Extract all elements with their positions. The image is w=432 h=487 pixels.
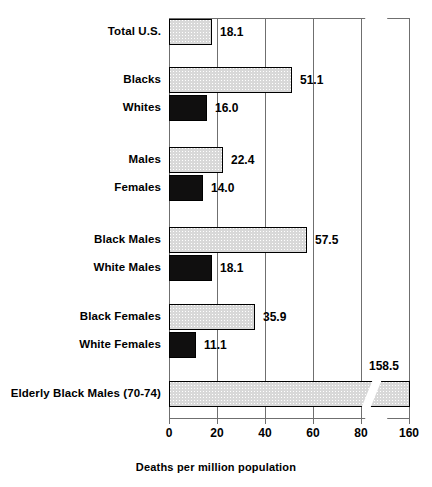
value-label-blacks: 51.1 [300, 67, 323, 93]
value-label-black-males: 57.5 [315, 227, 338, 253]
category-label-black-females: Black Females [0, 303, 165, 329]
bar-black-males [169, 227, 307, 253]
bar-whites [169, 95, 207, 121]
bar-white-males [169, 255, 212, 281]
bar-white-females [169, 332, 196, 358]
tick-0 [169, 418, 170, 424]
x-axis-line-left [169, 418, 367, 419]
category-label-column: Total U.S. Blacks Whites Males Females B… [0, 0, 165, 487]
bar-black-females [169, 304, 255, 330]
category-label-blacks: Blacks [0, 66, 165, 92]
category-label-whites: Whites [0, 94, 165, 120]
bar-females [169, 175, 203, 201]
value-label-white-males: 18.1 [220, 255, 243, 281]
tick-label-20: 20 [197, 426, 237, 440]
gridline-80 [361, 18, 362, 419]
plot-top-border-right [385, 18, 410, 19]
tick-60 [313, 418, 314, 424]
category-label-females: Females [0, 174, 165, 200]
x-axis-title: Deaths per million population [0, 461, 432, 473]
tick-80 [361, 418, 362, 424]
top-axis-break-icon [363, 15, 389, 23]
gridline-160 [409, 18, 410, 419]
value-label-elderly-black-males: 158.5 [369, 353, 399, 379]
value-label-total-us: 18.1 [220, 19, 243, 45]
bar-total-us [169, 19, 212, 45]
tick-label-80: 80 [341, 426, 381, 440]
category-label-total-us: Total U.S. [0, 18, 165, 44]
x-axis-break-icon [363, 415, 389, 423]
bar-chart: Total U.S. Blacks Whites Males Females B… [0, 0, 432, 487]
tick-20 [217, 418, 218, 424]
tick-label-160: 160 [389, 426, 429, 440]
category-label-white-males: White Males [0, 254, 165, 280]
tick-40 [265, 418, 266, 424]
bar-males [169, 147, 223, 173]
value-label-white-females: 11.1 [204, 332, 227, 358]
category-label-black-males: Black Males [0, 226, 165, 252]
category-label-males: Males [0, 146, 165, 172]
bar-blacks [169, 67, 292, 93]
value-label-males: 22.4 [231, 147, 254, 173]
tick-160 [409, 418, 410, 424]
plot-area: 18.1 51.1 16.0 22.4 14.0 57.5 18.1 35.9 … [169, 18, 410, 419]
tick-label-40: 40 [245, 426, 285, 440]
x-axis-line-right [385, 418, 410, 419]
tick-label-0: 0 [149, 426, 189, 440]
category-label-elderly-black-males: Elderly Black Males (70-74) [0, 380, 165, 406]
tick-label-60: 60 [293, 426, 333, 440]
value-label-whites: 16.0 [215, 95, 238, 121]
category-label-white-females: White Females [0, 331, 165, 357]
value-label-females: 14.0 [211, 175, 234, 201]
value-label-black-females: 35.9 [263, 304, 286, 330]
